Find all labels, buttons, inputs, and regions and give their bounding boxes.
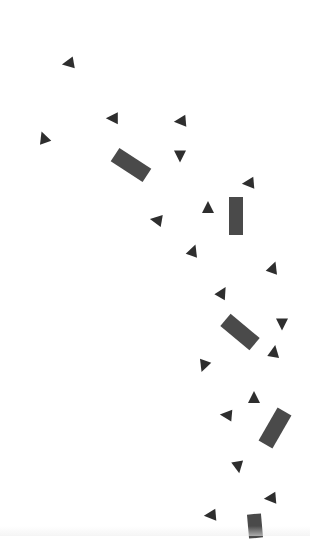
triangle-confetti-icon xyxy=(241,177,254,190)
rectangle-confetti-icon xyxy=(220,314,259,351)
rectangle-confetti-icon xyxy=(229,197,243,235)
triangle-confetti-icon xyxy=(267,344,281,358)
triangle-confetti-icon xyxy=(202,201,214,213)
triangle-confetti-icon xyxy=(106,112,118,124)
triangle-confetti-icon xyxy=(61,56,75,70)
triangle-confetti-icon xyxy=(248,391,260,403)
triangle-confetti-icon xyxy=(174,150,186,162)
rectangle-confetti-icon xyxy=(259,408,292,449)
triangle-confetti-icon xyxy=(203,509,216,522)
triangle-confetti-icon xyxy=(196,359,211,374)
rectangle-confetti-icon xyxy=(111,148,152,182)
triangle-confetti-icon xyxy=(149,213,163,227)
triangle-confetti-icon xyxy=(214,284,230,300)
triangle-confetti-icon xyxy=(276,318,288,330)
triangle-confetti-icon xyxy=(263,492,276,505)
triangle-confetti-icon xyxy=(173,115,186,128)
triangle-confetti-icon xyxy=(266,259,281,274)
triangle-confetti-icon xyxy=(219,409,232,422)
triangle-confetti-icon xyxy=(186,242,201,257)
bottom-fade xyxy=(0,526,310,536)
triangle-confetti-icon xyxy=(36,129,51,144)
triangle-confetti-icon xyxy=(231,460,245,474)
